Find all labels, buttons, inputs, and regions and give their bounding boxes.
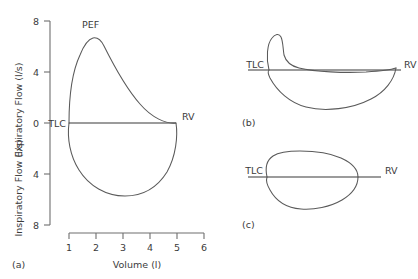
panel-a-letter: (a)	[12, 259, 25, 270]
panel-a: 8 4 0 4 8 Expiratory Flow (l/s) Inspirat…	[12, 16, 207, 270]
x-tick-label-5: 5	[174, 242, 180, 253]
y-axis-title-inspiratory: Inspiratory Flow (l/s)	[13, 139, 24, 236]
panel-a-label-tlc: TLC	[47, 118, 66, 129]
panel-b-label-tlc: TLC	[245, 59, 264, 70]
y-tick-label-4-bottom: 4	[33, 169, 39, 180]
panel-b-inspiratory-curve	[268, 68, 396, 109]
panel-b-label-rv: RV	[404, 59, 417, 70]
panel-a-inspiratory-curve	[68, 123, 176, 196]
figure-root: 8 4 0 4 8 Expiratory Flow (l/s) Inspirat…	[0, 0, 418, 279]
x-tick-label-1: 1	[66, 242, 72, 253]
panel-c-inspiratory-curve	[267, 177, 358, 209]
y-tick-label-4-top: 4	[33, 67, 39, 78]
panel-b-letter: (b)	[242, 117, 255, 128]
panel-c-letter: (c)	[242, 219, 255, 230]
panel-a-expiratory-curve	[69, 38, 176, 123]
panel-a-label-rv: RV	[182, 111, 195, 122]
flow-volume-figure: 8 4 0 4 8 Expiratory Flow (l/s) Inspirat…	[0, 0, 418, 279]
y-tick-label-8-top: 8	[33, 16, 39, 27]
panel-c-label-tlc: TLC	[244, 165, 263, 176]
y-tick-label-8-bottom: 8	[33, 220, 39, 231]
panel-c-label-rv: RV	[385, 165, 398, 176]
panel-c: TLC RV (c)	[242, 151, 398, 230]
x-tick-label-3: 3	[120, 242, 126, 253]
x-tick-label-4: 4	[147, 242, 153, 253]
label-pef: PEF	[82, 19, 99, 30]
x-tick-label-6: 6	[201, 242, 207, 253]
panel-b-expiratory-curve	[267, 34, 396, 72]
panel-b: TLC RV (b)	[242, 34, 417, 128]
x-axis-title: Volume (l)	[113, 259, 161, 270]
panel-c-expiratory-curve	[266, 151, 358, 177]
x-tick-label-2: 2	[93, 242, 99, 253]
y-tick-label-0: 0	[33, 118, 39, 129]
